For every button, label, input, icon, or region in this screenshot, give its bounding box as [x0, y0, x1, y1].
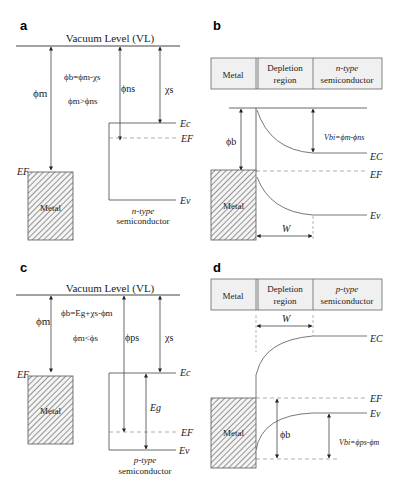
header-semi-2: semiconductor	[321, 75, 374, 85]
metal-label: Metal	[40, 203, 61, 213]
metal-label: Metal	[223, 428, 244, 438]
work-function-relation: ϕm>ϕns	[68, 96, 98, 106]
phi-b-label: ϕb	[226, 136, 236, 147]
panel-a: a Vacuum Level (VL) ϕm ϕb=ϕm-χs ϕm>ϕns ϕ…	[16, 18, 194, 240]
ev-label: Ev	[369, 210, 381, 221]
vacuum-level-label: Vacuum Level (VL)	[66, 282, 155, 295]
panel-label-d: d	[213, 260, 221, 275]
panel-label-c: c	[20, 260, 27, 275]
conduction-band-curve	[256, 336, 367, 375]
conduction-band-curve	[257, 110, 367, 153]
header-metal: Metal	[223, 70, 244, 80]
ec-label: Ec	[179, 118, 191, 129]
header-semi-1: n-type	[336, 63, 359, 73]
w-label: W	[282, 313, 292, 324]
vbi-label: Vbi=ϕm-ϕns	[324, 133, 364, 142]
panel-c: c Vacuum Level (VL) ϕm ϕb=Eg+χs-ϕm ϕm<ϕs…	[16, 260, 194, 476]
eg-label: Eg	[149, 402, 161, 413]
header-depletion-2: region	[274, 296, 297, 306]
phi-b-label: ϕb	[280, 429, 290, 440]
header-depletion-2: region	[274, 75, 297, 85]
header-depletion-1: Depletion	[267, 63, 303, 73]
vbi-label: Vbi=ϕps-ϕm	[339, 438, 380, 447]
header-depletion-1: Depletion	[267, 284, 303, 294]
panel-b: b Metal Depletion region n-type semicond…	[211, 18, 383, 240]
metal-label: Metal	[40, 406, 61, 416]
semiconductor-type: p-type	[133, 455, 157, 465]
header-metal: Metal	[223, 291, 244, 301]
ev-label: Ev	[178, 445, 190, 456]
phi-m-label: ϕm	[33, 87, 48, 99]
phi-ps-label: ϕps	[125, 332, 139, 343]
ef-label: EF	[180, 427, 194, 438]
chi-s-label: χs	[164, 84, 173, 95]
ev-label: Ev	[179, 195, 191, 206]
metal-label: Metal	[223, 201, 244, 211]
ef-label: EF	[180, 133, 194, 144]
phi-m-label: ϕm	[36, 315, 51, 327]
barrier-equation: ϕb=ϕm-χs	[64, 72, 101, 82]
w-label: W	[282, 223, 292, 234]
vacuum-level-label: Vacuum Level (VL)	[66, 32, 155, 45]
semiconductor-type: n-type	[132, 206, 155, 216]
work-function-relation: ϕm<ϕs	[73, 333, 99, 343]
ec-label: Ec	[179, 367, 191, 378]
ef-label: EF	[369, 169, 383, 180]
ec-label: EC	[369, 151, 383, 162]
ec-label: EC	[369, 333, 383, 344]
semiconductor-label: semiconductor	[119, 466, 172, 476]
ef-label: EF	[369, 393, 383, 404]
schottky-band-diagrams: a Vacuum Level (VL) ϕm ϕb=ϕm-χs ϕm>ϕns ϕ…	[0, 0, 399, 489]
semiconductor-label: semiconductor	[117, 216, 170, 226]
phi-ns-label: ϕns	[121, 83, 135, 94]
panel-label-a: a	[20, 18, 28, 33]
barrier-equation: ϕb=Eg+χs-ϕm	[61, 308, 113, 318]
header-semi-1: p-type	[335, 284, 359, 294]
valence-band-curve	[257, 177, 367, 215]
ev-label: Ev	[369, 408, 381, 419]
header-semi-2: semiconductor	[321, 296, 374, 306]
chi-s-label: χs	[164, 332, 173, 343]
panel-d: d Metal Depletion region p-type semicond…	[211, 260, 383, 468]
panel-label-b: b	[213, 18, 221, 33]
